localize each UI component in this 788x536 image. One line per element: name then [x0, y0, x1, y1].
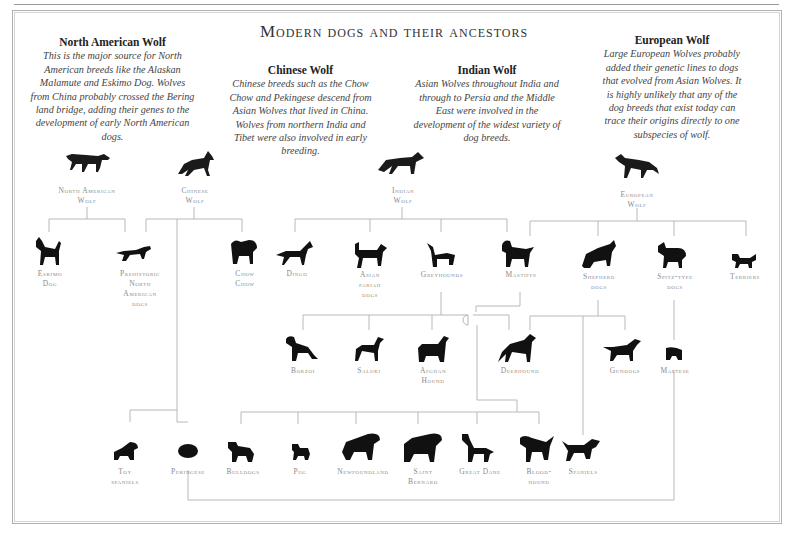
- spitz-dog-icon: [656, 242, 688, 270]
- bloodhound-label: Blood-hound: [514, 467, 564, 487]
- gundogs-label: Gundogs: [600, 366, 650, 376]
- spaniels-label: Spaniels: [558, 467, 608, 477]
- toy-spaniel-icon: [112, 440, 140, 462]
- european-wolf-icon: [613, 152, 661, 180]
- bulldogs-label: Bulldogs: [218, 467, 268, 477]
- chinese-wolf-icon: [176, 148, 216, 178]
- north-american-wolf-label: North AmericanWolf: [42, 186, 132, 206]
- bulldog-icon: [226, 440, 256, 464]
- pug-label: Pug: [280, 467, 320, 477]
- deerhound-label: Deerhound: [490, 366, 550, 376]
- great-dane-icon: [460, 432, 496, 464]
- pekingese-label: Pekingese: [163, 467, 213, 477]
- saluki-icon: [352, 335, 386, 363]
- shepherd-dog-icon: [580, 240, 618, 270]
- borzoi-label: Borzoi: [278, 366, 328, 376]
- saluki-label: Saluki: [344, 366, 394, 376]
- chow-chow-icon: [229, 238, 259, 266]
- newfoundland-label: Newfoundland: [328, 467, 398, 477]
- greyhounds-label: Greyhounds: [410, 270, 474, 280]
- deerhound-icon: [496, 332, 540, 364]
- toy-spaniels-label: Toyspaniels: [100, 467, 150, 487]
- spaniel-icon: [562, 437, 602, 463]
- dingo-icon: [276, 239, 316, 267]
- prehistoric-dog-label: PrehistoricNorthAmericandogs: [105, 269, 175, 309]
- prehistoric-north-american-dog-icon: [116, 243, 152, 265]
- indian-wolf-icon: [376, 150, 426, 178]
- borzoi-icon: [284, 335, 320, 363]
- maltese-label: Maltese: [650, 366, 700, 376]
- spitz-type-label: Spitz-typedogs: [646, 272, 704, 292]
- asian-pariah-dog-icon: [353, 240, 389, 270]
- terrier-icon: [730, 250, 758, 270]
- saint-bernard-label: SaintBernard: [398, 467, 448, 487]
- maltese-icon: [664, 346, 684, 362]
- shepherd-dogs-label: Shepherddogs: [572, 272, 626, 292]
- mastiff-icon: [500, 239, 536, 269]
- pug-icon: [290, 442, 312, 462]
- terriers-label: Terriers: [720, 272, 770, 282]
- chinese-wolf-label: ChineseWolf: [160, 186, 230, 206]
- asian-pariah-label: Asianpariahdogs: [345, 270, 395, 300]
- eskimo-dog-label: EskimoDog: [25, 269, 75, 289]
- afghan-hound-icon: [416, 334, 450, 364]
- eskimo-dog-icon: [33, 237, 63, 267]
- greyhound-icon: [425, 241, 459, 269]
- chow-chow-label: ChowChow: [220, 269, 270, 289]
- pekingese-icon: [177, 443, 199, 459]
- afghan-hound-label: AfghanHound: [408, 366, 458, 386]
- newfoundland-icon: [340, 432, 384, 462]
- european-wolf-label: EuropeanWolf: [602, 190, 672, 210]
- bloodhound-icon: [518, 434, 556, 464]
- dingo-label: Dingo: [272, 269, 322, 279]
- saint-bernard-icon: [402, 432, 444, 464]
- great-dane-label: Great Dane: [450, 467, 510, 477]
- north-american-wolf-icon: [64, 150, 114, 174]
- indian-wolf-label: IndianWolf: [368, 186, 438, 206]
- mastiffs-label: Mastiffs: [494, 270, 548, 280]
- gundog-icon: [603, 337, 643, 363]
